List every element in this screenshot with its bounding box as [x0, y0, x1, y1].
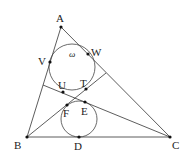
segments-layer: [27, 27, 170, 137]
side-ca-line: [61, 27, 170, 137]
point-d-dot: [77, 135, 80, 138]
point-t-label: T: [80, 77, 87, 89]
point-e-dot: [83, 100, 86, 103]
point-a-label: A: [56, 12, 64, 24]
point-w-dot: [86, 52, 89, 55]
circle-omega-label: ω: [69, 49, 75, 59]
point-v-dot: [48, 60, 51, 63]
points-layer: [25, 25, 171, 138]
point-f-label: F: [63, 107, 69, 119]
point-e-label: E: [81, 105, 88, 117]
point-b-dot: [25, 135, 28, 138]
point-v-label: V: [38, 55, 46, 67]
point-w-label: W: [91, 46, 102, 58]
point-b-label: B: [14, 139, 21, 151]
point-c-label: C: [172, 139, 179, 151]
side-ab-line: [27, 27, 61, 137]
point-a-dot: [59, 25, 62, 28]
point-u-label: U: [58, 79, 66, 91]
point-d-label: D: [74, 140, 82, 152]
geometry-diagram: ωABCDVWUTFE: [0, 0, 191, 159]
